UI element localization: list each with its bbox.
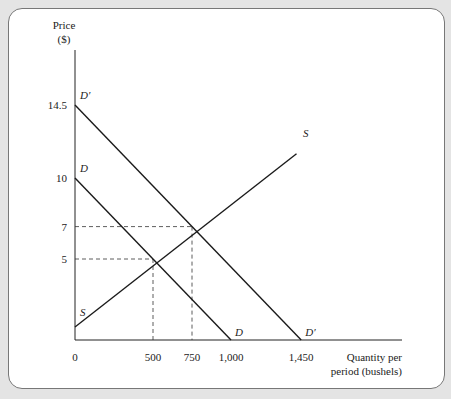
curve-label: D (234, 326, 243, 338)
x-axis-label: Quantity per (347, 351, 403, 363)
curve-label: S (303, 127, 309, 139)
x-tick-label: 1,450 (289, 351, 314, 363)
curve-label: D′ (79, 89, 91, 101)
y-axis-label: Price (53, 19, 76, 31)
x-tick-label: 500 (145, 351, 162, 363)
y-tick-label: 7 (62, 221, 68, 233)
y-tick-label: 14.5 (48, 99, 68, 111)
curve-D′ (75, 105, 301, 340)
x-tick-label: 1,000 (219, 351, 244, 363)
supply-demand-chart: Price($)Quantity perperiod (bushels)0500… (0, 0, 451, 399)
y-axis-label: ($) (58, 33, 71, 46)
curve-label: S (80, 306, 86, 318)
x-axis-label: period (bushels) (331, 365, 403, 378)
y-tick-label: 10 (56, 172, 68, 184)
x-tick-label: 0 (72, 351, 78, 363)
y-tick-label: 5 (62, 253, 68, 265)
x-tick-label: 750 (184, 351, 201, 363)
curve-label: D (79, 162, 88, 174)
curve-label: D′ (304, 326, 316, 338)
